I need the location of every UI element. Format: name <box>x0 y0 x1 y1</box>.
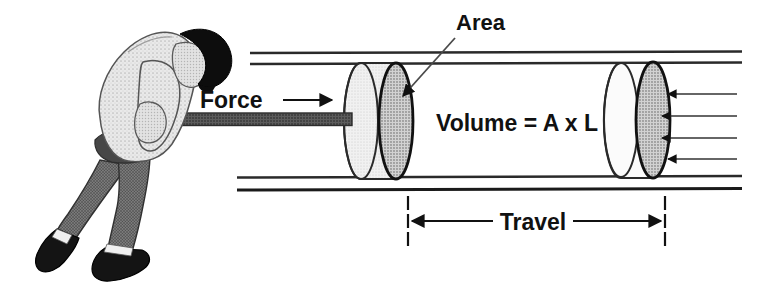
cylinder-top-line-inner <box>250 63 742 65</box>
cylinder-bottom-line-inner <box>237 176 742 178</box>
pressure-arrows-group <box>662 94 737 159</box>
figure-canvas: Force Area Volume = A x L Travel <box>0 0 762 293</box>
piston-left-start-position <box>344 63 413 179</box>
piston-right-face-area <box>636 62 670 178</box>
cylinder-top-line-outer <box>250 52 742 54</box>
piston-left-face-area <box>379 63 413 179</box>
force-label: Force <box>200 87 263 113</box>
leader-line-arrow-icon <box>403 38 455 96</box>
area-label: Area <box>456 10 506 35</box>
cylinder-bottom-line-outer <box>237 189 742 191</box>
piston-right-end-position <box>604 62 670 178</box>
person-pushing-piston <box>36 29 232 281</box>
travel-dimension: Travel <box>408 196 665 246</box>
volume-formula-label: Volume = A x L <box>436 110 598 136</box>
volume-annotation: Volume = A x L <box>436 110 598 136</box>
travel-label: Travel <box>500 209 567 235</box>
force-annotation: Force <box>200 87 332 113</box>
person-hand <box>135 102 167 143</box>
